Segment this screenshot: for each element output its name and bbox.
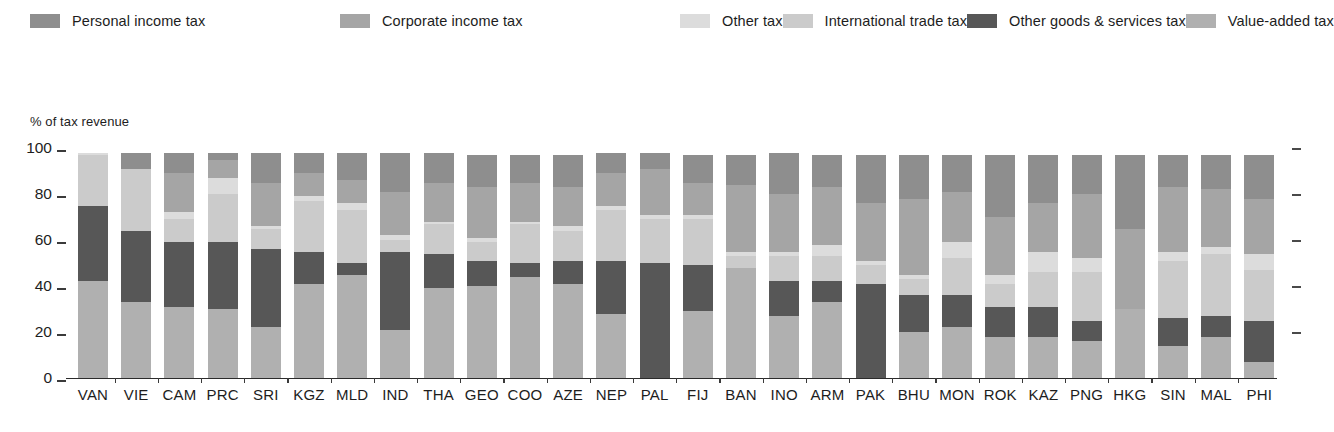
bar-segment-vat — [726, 268, 756, 378]
bar-segment-vat — [1158, 346, 1188, 378]
bar-segment-goods — [121, 231, 151, 302]
bar-segment-personal — [985, 155, 1015, 217]
bar-segment-personal — [510, 155, 540, 183]
bar-segment-goods — [164, 242, 194, 306]
bar-segment-goods — [640, 263, 670, 378]
bar-segment-corporate — [726, 185, 756, 252]
bar-segment-vat — [942, 327, 972, 378]
x-axis-tick — [676, 378, 677, 383]
bar-segment-personal — [856, 155, 886, 203]
bar-pal — [640, 148, 670, 378]
bar-ind — [380, 148, 410, 378]
bar-segment-goods — [78, 206, 108, 282]
bar-segment-trade — [251, 229, 281, 250]
bar-segment-trade — [942, 258, 972, 295]
y-axis-tick-dash — [57, 288, 66, 290]
bar-segment-personal — [942, 155, 972, 192]
bar-segment-corporate — [640, 169, 670, 215]
bar-segment-personal — [726, 155, 756, 185]
bar-segment-trade — [856, 265, 886, 283]
y-axis-tick-dash — [57, 242, 66, 244]
bar-kgz — [294, 148, 324, 378]
x-axis-tick — [1022, 378, 1023, 383]
bar-segment-goods — [380, 252, 410, 330]
bar-segment-vat — [1115, 309, 1145, 378]
bar-segment-other — [1028, 252, 1058, 273]
y-axis-tick-dash — [57, 380, 66, 382]
bar-segment-goods — [596, 261, 626, 314]
x-axis-label-phi: PHI — [1232, 386, 1286, 403]
bar-segment-trade — [899, 279, 929, 295]
bar-segment-personal — [640, 153, 670, 169]
bar-rok — [985, 148, 1015, 378]
bar-segment-personal — [1072, 155, 1102, 194]
bar-segment-vat — [380, 330, 410, 378]
bar-segment-goods — [1028, 307, 1058, 337]
bar-hkg — [1115, 148, 1145, 378]
bar-segment-personal — [121, 153, 151, 169]
bar-segment-trade — [467, 242, 497, 260]
bar-segment-goods — [1158, 318, 1188, 346]
x-axis-tick — [633, 378, 634, 383]
bar-segment-trade — [596, 210, 626, 261]
x-axis-tick — [460, 378, 461, 383]
bar-segment-corporate — [899, 199, 929, 275]
x-axis-tick — [201, 378, 202, 383]
y-axis-right-tick-60 — [1292, 240, 1301, 242]
bar-mon — [942, 148, 972, 378]
bar-segment-personal — [769, 153, 799, 194]
bar-cam — [164, 148, 194, 378]
bar-segment-corporate — [467, 187, 497, 238]
x-axis-tick — [1195, 378, 1196, 383]
bar-segment-corporate — [1028, 203, 1058, 251]
bar-segment-corporate — [942, 192, 972, 243]
y-axis-right-tick-80 — [1292, 194, 1301, 196]
bar-segment-vat — [769, 316, 799, 378]
bar-segment-other — [208, 178, 238, 194]
bar-phi — [1244, 148, 1274, 378]
bar-segment-goods — [467, 261, 497, 286]
bar-coo — [510, 148, 540, 378]
bar-mld — [337, 148, 367, 378]
bar-segment-vat — [553, 284, 583, 378]
bar-segment-corporate — [294, 173, 324, 196]
bar-segment-goods — [1201, 316, 1231, 337]
x-axis-tick — [1238, 378, 1239, 383]
y-axis-tick-label: 80 — [35, 186, 52, 202]
bar-segment-personal — [424, 153, 454, 183]
bar-segment-goods — [899, 295, 929, 332]
bar-tha — [424, 148, 454, 378]
x-axis-tick — [806, 378, 807, 383]
bar-van — [78, 148, 108, 378]
bar-segment-other — [985, 275, 1015, 284]
bar-segment-other — [337, 203, 367, 210]
bar-segment-goods — [510, 263, 540, 277]
bar-segment-vat — [208, 309, 238, 378]
bar-segment-other — [1072, 258, 1102, 272]
bar-segment-vat — [1072, 341, 1102, 378]
bar-segment-trade — [164, 219, 194, 242]
bar-segment-personal — [294, 153, 324, 174]
bar-segment-corporate — [856, 203, 886, 261]
bar-segment-other — [164, 212, 194, 219]
y-axis-right-tick-100 — [1292, 148, 1301, 150]
y-axis-tick-label: 60 — [35, 232, 52, 248]
bar-segment-personal — [1028, 155, 1058, 203]
bar-segment-corporate — [1158, 187, 1188, 251]
x-axis-tick — [763, 378, 764, 383]
x-axis-tick — [503, 378, 504, 383]
bar-segment-trade — [208, 194, 238, 242]
bar-segment-trade — [553, 231, 583, 261]
x-axis-tick — [417, 378, 418, 383]
bar-segment-corporate — [337, 180, 367, 203]
bar-segment-other — [1244, 254, 1274, 270]
y-axis-tick-label: 100 — [26, 140, 52, 156]
y-axis-tick-label: 40 — [35, 278, 52, 294]
bar-segment-personal — [899, 155, 929, 199]
bar-segment-corporate — [769, 194, 799, 252]
bar-segment-other — [1158, 252, 1188, 261]
bar-segment-vat — [596, 314, 626, 378]
bar-segment-corporate — [1201, 189, 1231, 247]
bar-segment-corporate — [596, 173, 626, 205]
